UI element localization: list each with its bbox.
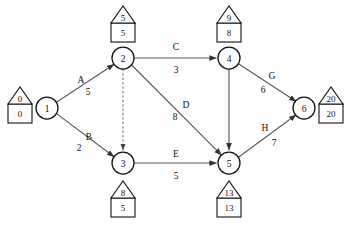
tag-node-3-top: 8 [121,188,126,198]
edge-label-C-activity: C [173,42,179,52]
node-3-label: 3 [121,159,126,169]
tag-node-1-bottom: 0 [18,109,23,119]
node-6-label: 6 [302,104,307,114]
edge-label-H-activity: H [262,123,269,133]
edge-label-G-activity: G [269,71,276,81]
edge-label-E-activity: E [173,149,179,159]
tag-node-2: 5 5 [111,6,135,42]
node-3[interactable]: 3 [112,152,134,174]
edge-label-G-duration: 6 [261,85,266,95]
edge-label-D-duration: 8 [173,112,178,122]
tag-node-4: 9 8 [217,6,241,42]
edge-label-D-activity: D [183,100,190,110]
node-2[interactable]: 2 [112,47,134,69]
tag-node-6-top: 20 [327,94,337,104]
node-5[interactable]: 5 [218,152,240,174]
tag-node-6: 20 20 [319,87,343,123]
node-4-label: 4 [227,54,232,64]
edge-D-2-to-5[interactable] [132,65,222,155]
node-5-label: 5 [227,159,232,169]
edge-label-B-activity: B [86,132,92,142]
tag-node-4-top: 9 [227,13,232,23]
edge-label-A-duration: 5 [86,87,91,97]
node-1[interactable]: 1 [36,97,58,119]
tag-node-3-bottom: 5 [121,203,126,213]
tag-node-2-bottom: 5 [121,28,126,38]
tag-node-2-top: 5 [121,13,126,23]
edge-label-B-duration: 2 [77,143,82,153]
node-1-label: 1 [45,104,50,114]
edge-H-5-to-6[interactable] [238,115,296,157]
tag-node-1: 0 0 [8,87,32,123]
tag-node-5: 13 13 [217,181,241,217]
tag-node-5-top: 13 [225,188,235,198]
tag-node-4-bottom: 8 [227,28,232,38]
tag-node-5-bottom: 13 [225,203,235,213]
edge-labels-layer: A 5 B 2 C 3 D 8 E 5 G 6 H 7 [77,42,277,181]
edge-G-4-to-6[interactable] [238,64,296,102]
edge-label-E-duration: 5 [174,171,179,181]
edge-label-H-duration: 7 [272,138,277,148]
edge-label-A-activity: A [78,75,85,85]
tag-node-6-bottom: 20 [327,109,337,119]
network-diagram: 0 0 5 5 8 5 9 8 [0,0,351,228]
node-6[interactable]: 6 [293,97,315,119]
network-canvas: 0 0 5 5 8 5 9 8 [0,0,351,228]
node-2-label: 2 [121,54,126,64]
node-4[interactable]: 4 [218,47,240,69]
tag-node-1-top: 0 [18,94,23,104]
edge-label-C-duration: 3 [174,65,179,75]
tag-node-3: 8 5 [111,181,135,217]
